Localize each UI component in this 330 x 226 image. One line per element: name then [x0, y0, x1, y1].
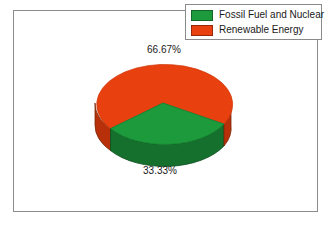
- legend-item-fossil[interactable]: Fossil Fuel and Nuclear: [191, 8, 317, 22]
- slice-value-label-renewable: 66.67%: [128, 44, 200, 55]
- legend-swatch-fossil: [191, 10, 213, 21]
- legend-label-renewable: Renewable Energy: [219, 24, 304, 36]
- slice-value-label-fossil: 33.33%: [124, 165, 196, 176]
- legend-swatch-renewable: [191, 25, 213, 36]
- chart-legend: Fossil Fuel and Nuclear Renewable Energy: [185, 4, 322, 40]
- legend-item-renewable[interactable]: Renewable Energy: [191, 23, 317, 37]
- chart-canvas: 66.67% 33.33% Fossil Fuel and Nuclear Re…: [0, 0, 330, 226]
- legend-label-fossil: Fossil Fuel and Nuclear: [219, 9, 324, 21]
